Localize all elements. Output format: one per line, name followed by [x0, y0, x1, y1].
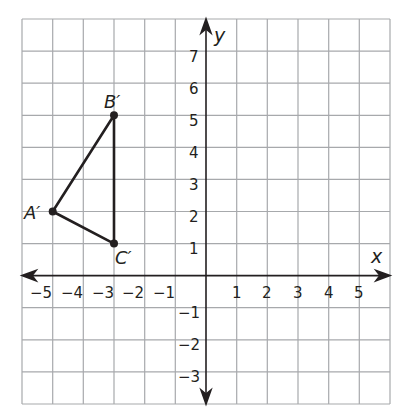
- label-a-prime: A′: [23, 202, 40, 223]
- x-tick-label: 2: [262, 284, 272, 302]
- x-tick-label: −4: [61, 284, 83, 302]
- x-tick-labels: −5 −4 −3 −2 −1 1 2 3 4 5: [30, 284, 364, 302]
- y-tick-label: 6: [189, 80, 199, 98]
- label-b-prime: B′: [104, 91, 120, 112]
- x-tick-label: −3: [92, 284, 114, 302]
- y-tick-label: 3: [189, 176, 199, 194]
- x-axis-label: x: [370, 245, 383, 267]
- y-tick-label: 7: [189, 48, 199, 66]
- point-b-prime: [110, 111, 118, 119]
- x-tick-label: 1: [232, 284, 242, 302]
- x-tick-label: −1: [153, 284, 175, 302]
- coordinate-plane: x y −5 −4 −3 −2 −1 1 2 3 4 5 7 6 5 4 3 2…: [0, 0, 404, 409]
- x-tick-label: 4: [324, 284, 334, 302]
- y-tick-label: −3: [178, 368, 200, 386]
- x-tick-label: 5: [354, 284, 364, 302]
- y-tick-label: −1: [178, 304, 200, 322]
- y-tick-label: 2: [189, 208, 199, 226]
- y-axis-label: y: [213, 24, 226, 46]
- y-tick-label: 1: [189, 240, 199, 258]
- point-a-prime: [49, 208, 57, 216]
- y-tick-label: 5: [189, 112, 199, 130]
- x-tick-label: −2: [122, 284, 144, 302]
- x-tick-label: −5: [30, 284, 52, 302]
- y-tick-labels: 7 6 5 4 3 2 1 −1 −2 −3: [178, 48, 200, 386]
- y-tick-label: 4: [189, 144, 199, 162]
- label-c-prime: C′: [115, 247, 132, 268]
- x-tick-label: 3: [293, 284, 303, 302]
- y-tick-label: −2: [178, 336, 200, 354]
